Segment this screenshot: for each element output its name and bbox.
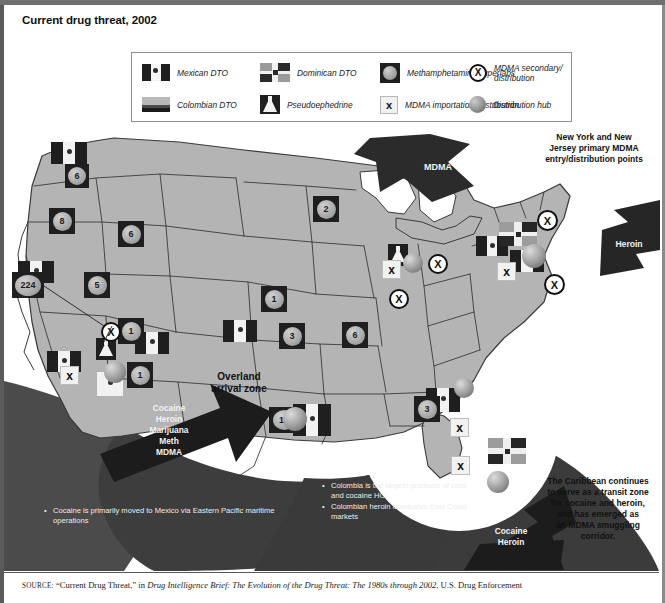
legend-item-pseudoephedrine: Pseudoephedrine xyxy=(260,89,353,120)
legend-row-2: Colombian DTO Pseudoephedrine x MDMA imp… xyxy=(132,89,573,120)
colombia-bullet-item: Colombian heroin dominates East Coast ma… xyxy=(331,502,472,522)
ny-nj-line: New York and New xyxy=(524,132,662,143)
figure-page: Current drug threat, 2002 Mexican DTO Do… xyxy=(0,0,665,603)
frame-top-border xyxy=(0,0,665,5)
ny-nj-annotation: New York and New Jersey primary MDMA ent… xyxy=(524,132,662,165)
caribbean-annotation-line: to serve as a transit zone xyxy=(534,487,662,498)
legend-label: Mexican DTO xyxy=(177,68,228,78)
source-connector: in xyxy=(136,580,147,590)
colombia-bullet-list: Colombia is the largest producer of coca… xyxy=(322,481,472,523)
pacific-bullet-list: Cocaine is primarily moved to Mexico via… xyxy=(44,506,294,527)
legend-label: Pseudoephedrine xyxy=(287,100,353,110)
overland-line-2: arrival zone xyxy=(184,383,294,395)
source-prefix: SOURCE: xyxy=(22,582,54,590)
pseudoephedrine-icon xyxy=(260,95,280,114)
legend-item-distribution-hub: Distribution hub xyxy=(469,89,551,120)
legend-label: Dominican DTO xyxy=(297,68,356,78)
threat-map: 6 8 6 224 5 2 1 1 1 3 6 17 3 x x x x x X… xyxy=(4,126,662,571)
legend-item-mexican-dto: Mexican DTO xyxy=(142,57,228,88)
map-legend: Mexican DTO Dominican DTO Methamphetamin… xyxy=(131,52,572,122)
caribbean-annotation-line: for cocaine and heroin, xyxy=(534,498,662,509)
source-tail: , U.S. Drug Enforcement xyxy=(436,580,522,590)
legend-item-dominican-dto: Dominican DTO xyxy=(260,57,356,88)
source-divider xyxy=(4,572,659,573)
colombian-flag-icon xyxy=(142,97,170,112)
dominican-flag-icon xyxy=(260,63,290,82)
ny-nj-line: entry/distribution points xyxy=(524,154,662,165)
pacific-bullet-item: Cocaine is primarily moved to Mexico via… xyxy=(53,506,294,526)
mdma-secondary-icon: X xyxy=(469,64,487,82)
colombia-bullet-item: Colombia is the largest producer of coca… xyxy=(331,481,472,501)
caribbean-annotation: The Caribbean continues to serve as a tr… xyxy=(534,476,662,542)
legend-item-mdma-secondary: X MDMA secondary/ distribution xyxy=(469,57,573,88)
overland-arrival-zone-label: Overland arrival zone xyxy=(184,371,294,395)
caribbean-annotation-line: and has emerged as xyxy=(534,509,662,520)
source-publication: Drug Intelligence Brief: The Evolution o… xyxy=(147,580,436,590)
meth-superlab-icon xyxy=(380,63,400,83)
source-quoted-title: “Current Drug Threat,” xyxy=(56,580,136,590)
caribbean-annotation-line: corridor. xyxy=(534,531,662,542)
legend-row-1: Mexican DTO Dominican DTO Methamphetamin… xyxy=(132,57,573,88)
distribution-hub-icon xyxy=(469,96,486,113)
page-title: Current drug threat, 2002 xyxy=(22,14,157,26)
caribbean-annotation-line: an MDMA smuggling xyxy=(534,520,662,531)
legend-label: MDMA secondary/ distribution xyxy=(494,63,573,83)
legend-item-colombian-dto: Colombian DTO xyxy=(142,89,237,120)
ny-nj-line: Jersey primary MDMA xyxy=(524,143,662,154)
mdma-importation-icon: x xyxy=(380,96,398,114)
caribbean-annotation-line: The Caribbean continues xyxy=(534,476,662,487)
mexican-flag-icon xyxy=(142,64,170,81)
source-citation: SOURCE: “Current Drug Threat,” in Drug I… xyxy=(22,580,642,592)
legend-label: Distribution hub xyxy=(493,100,551,110)
overland-line-1: Overland xyxy=(184,371,294,383)
legend-label: Colombian DTO xyxy=(177,100,237,110)
